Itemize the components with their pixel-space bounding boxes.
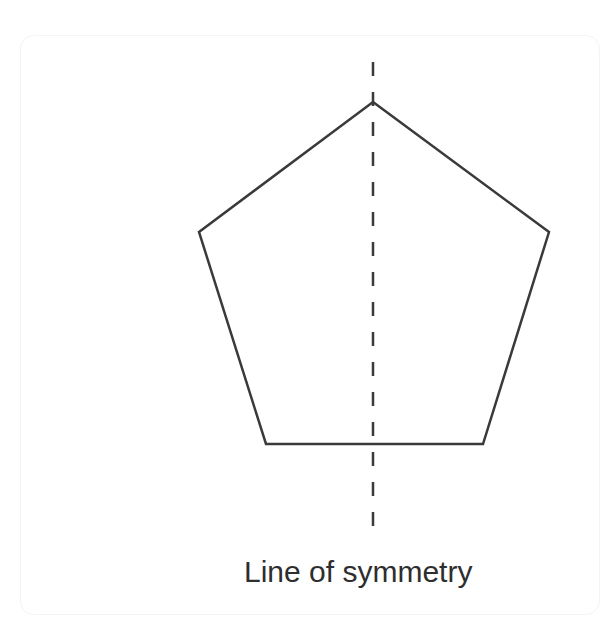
symmetry-caption: Line of symmetry [244, 555, 472, 589]
